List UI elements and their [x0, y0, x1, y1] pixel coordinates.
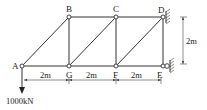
dimension-AG: 2m [40, 70, 51, 80]
dimension-FE: 2m [131, 70, 142, 80]
load-label: 1000kN [6, 96, 33, 106]
dimension-GF: 2m [86, 70, 97, 80]
label-A: A [12, 61, 19, 71]
label-F: F [113, 70, 118, 80]
member-FD [116, 17, 163, 66]
pin-support-D [166, 9, 170, 24]
node-C [114, 15, 118, 19]
node-D [161, 15, 165, 19]
node-G [67, 64, 71, 68]
truss-members [22, 17, 163, 66]
truss-diagram: A B C D E F G 1000kN 2m 2m 2m 2m [0, 0, 207, 110]
dimension-DE: 2m [186, 36, 197, 46]
node-E [161, 64, 165, 68]
member-AB [22, 17, 69, 66]
label-E: E [157, 70, 163, 80]
label-G: G [66, 70, 73, 80]
roller-support-E [165, 58, 174, 73]
node-A [20, 64, 24, 68]
member-GC [69, 17, 116, 66]
label-D: D [158, 5, 165, 15]
node-B [67, 15, 71, 19]
load-arrow-icon [19, 68, 25, 94]
label-C: C [113, 4, 119, 14]
label-B: B [66, 4, 72, 14]
node-F [114, 64, 118, 68]
